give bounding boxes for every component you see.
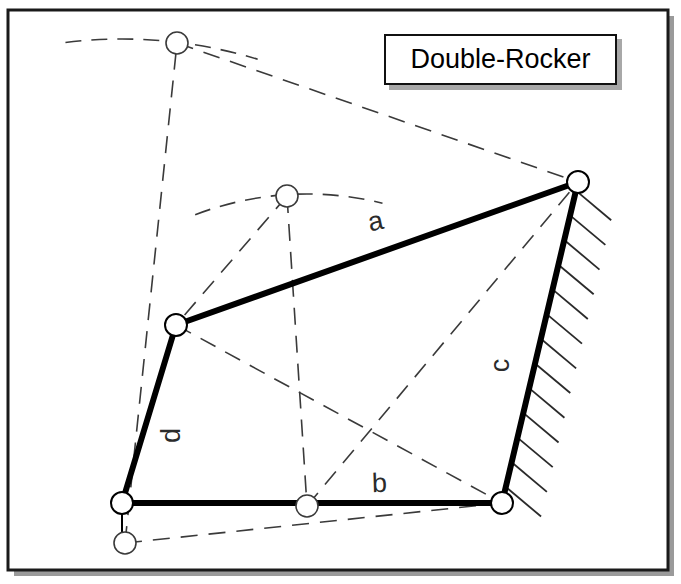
ground-pivot-right — [491, 492, 513, 514]
ghost-joint-mid — [276, 185, 298, 207]
title-box: Double-Rocker — [384, 34, 617, 85]
figure-frame — [8, 10, 668, 570]
double-rocker-linkage-diagram — [0, 0, 681, 584]
ghost-joint-top — [166, 32, 188, 54]
figure-canvas: a b c d Double-Rocker — [0, 0, 681, 584]
coupler-joint-left — [165, 314, 187, 336]
link-label-d: d — [156, 428, 187, 443]
ghost-joint-bottom-left — [114, 532, 136, 554]
link-label-c: c — [485, 359, 516, 373]
ground-pivot-left — [111, 492, 133, 514]
link-label-b: b — [371, 468, 387, 500]
coupler-joint-right — [567, 171, 589, 193]
ghost-joint-bottom-center — [296, 495, 318, 517]
title-text: Double-Rocker — [410, 44, 590, 75]
